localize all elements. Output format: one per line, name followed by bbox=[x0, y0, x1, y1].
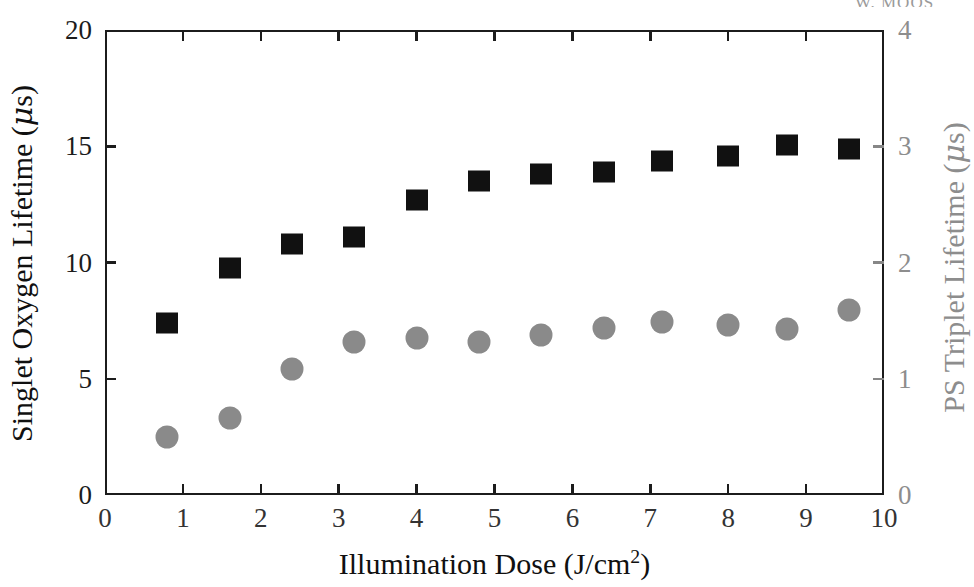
x-axis-tick-label: 3 bbox=[332, 505, 346, 532]
y-axis-right-title-text: PS Triplet Lifetime ( bbox=[937, 164, 970, 413]
x-axis-title-suffix: ) bbox=[640, 547, 650, 580]
x-axis-tick-label: 5 bbox=[488, 505, 502, 532]
y-axis-left-title: Singlet Oxygen Lifetime (μs) bbox=[4, 29, 39, 499]
data-point-circle bbox=[650, 310, 673, 333]
x-axis-tick-top bbox=[571, 30, 574, 41]
x-axis-tick-label: 0 bbox=[98, 505, 112, 532]
y-axis-right-tick-label: 2 bbox=[898, 249, 912, 276]
x-axis-tick-label: 9 bbox=[799, 505, 813, 532]
y-axis-left-tick-label: 20 bbox=[65, 17, 92, 44]
x-axis-tick-bottom bbox=[727, 484, 730, 495]
data-point-circle bbox=[837, 299, 860, 322]
y-axis-left-title-suffix: s) bbox=[5, 85, 38, 107]
data-point-circle bbox=[156, 425, 179, 448]
y-axis-right-tick-label: 1 bbox=[898, 365, 912, 392]
data-point-square bbox=[717, 145, 739, 166]
x-axis-title-text: Illumination Dose (J/cm bbox=[339, 547, 631, 580]
data-point-square bbox=[156, 312, 178, 333]
figure-scatter-plot: W. MOOS 05101520 01234 012345678910 Sing… bbox=[0, 0, 974, 587]
x-axis-tick-top bbox=[649, 30, 652, 41]
mu-symbol-left: μ bbox=[4, 107, 39, 127]
y-axis-left-tick-label: 0 bbox=[79, 482, 93, 509]
x-axis-tick-top bbox=[337, 30, 340, 41]
y-axis-left-tick bbox=[105, 145, 116, 148]
data-point-circle bbox=[343, 330, 366, 353]
x-axis-tick-top bbox=[493, 30, 496, 41]
data-point-circle bbox=[280, 358, 303, 381]
data-point-square bbox=[530, 164, 552, 185]
data-point-square bbox=[593, 161, 615, 182]
running-header: W. MOOS bbox=[855, 0, 974, 7]
x-axis-tick-labels: 012345678910 bbox=[105, 505, 884, 539]
y-axis-right-tick bbox=[873, 378, 884, 381]
y-axis-right-tick-label: 0 bbox=[898, 482, 912, 509]
y-axis-right-tick-labels: 01234 bbox=[898, 30, 938, 495]
y-axis-right-tick bbox=[873, 145, 884, 148]
y-axis-left-tick-label: 15 bbox=[65, 133, 92, 160]
x-axis-tick-label: 7 bbox=[644, 505, 658, 532]
x-axis-tick-bottom bbox=[571, 484, 574, 495]
data-point-square bbox=[343, 226, 365, 247]
x-axis-tick-top bbox=[415, 30, 418, 41]
data-point-square bbox=[406, 189, 428, 210]
x-axis-tick-bottom bbox=[493, 484, 496, 495]
data-point-square bbox=[838, 138, 860, 159]
y-axis-left-tick bbox=[105, 261, 116, 264]
x-axis-title: Illumination Dose (J/cm2) bbox=[105, 545, 884, 581]
x-axis-tick-label: 8 bbox=[721, 505, 735, 532]
data-point-circle bbox=[467, 330, 490, 353]
data-point-circle bbox=[218, 407, 241, 430]
data-point-circle bbox=[530, 323, 553, 346]
x-axis-tick-label: 1 bbox=[176, 505, 190, 532]
data-point-square bbox=[468, 171, 490, 192]
y-axis-left-tick-label: 5 bbox=[79, 365, 93, 392]
y-axis-left-tick-label: 10 bbox=[65, 249, 92, 276]
data-point-circle bbox=[592, 316, 615, 339]
x-axis-tick-bottom bbox=[649, 484, 652, 495]
x-axis-tick-top bbox=[260, 30, 263, 41]
x-axis-tick-label: 10 bbox=[871, 505, 898, 532]
x-axis-tick-top bbox=[182, 30, 185, 41]
y-axis-right-title: PS Triplet Lifetime (μs) bbox=[936, 33, 971, 503]
x-axis-tick-bottom bbox=[260, 484, 263, 495]
y-axis-right-tick-label: 4 bbox=[898, 17, 912, 44]
data-point-circle bbox=[717, 314, 740, 337]
y-axis-right-tick-label: 3 bbox=[898, 133, 912, 160]
x-axis-tick-top bbox=[805, 30, 808, 41]
data-point-circle bbox=[775, 317, 798, 340]
x-axis-tick-bottom bbox=[415, 484, 418, 495]
x-axis-title-exponent: 2 bbox=[630, 545, 640, 567]
y-axis-right-tick bbox=[873, 261, 884, 264]
mu-symbol-right: μ bbox=[936, 144, 971, 164]
x-axis-tick-top bbox=[727, 30, 730, 41]
y-axis-left-tick-labels: 05101520 bbox=[40, 30, 92, 495]
x-axis-tick-bottom bbox=[805, 484, 808, 495]
data-point-square bbox=[281, 233, 303, 254]
data-point-square bbox=[776, 135, 798, 156]
plot-area bbox=[105, 30, 884, 495]
data-point-square bbox=[219, 258, 241, 279]
y-axis-left-title-text: Singlet Oxygen Lifetime ( bbox=[5, 126, 38, 442]
x-axis-tick-bottom bbox=[337, 484, 340, 495]
data-point-circle bbox=[405, 327, 428, 350]
y-axis-right-title-suffix: s) bbox=[937, 122, 970, 144]
y-axis-left-tick bbox=[105, 378, 116, 381]
data-point-square bbox=[651, 151, 673, 172]
x-axis-tick-label: 6 bbox=[566, 505, 580, 532]
x-axis-tick-bottom bbox=[182, 484, 185, 495]
x-axis-tick-label: 2 bbox=[254, 505, 268, 532]
x-axis-tick-label: 4 bbox=[410, 505, 424, 532]
